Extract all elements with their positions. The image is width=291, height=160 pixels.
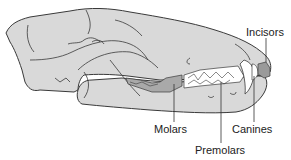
skull-illustration	[0, 0, 291, 160]
label-canines: Canines	[232, 124, 272, 135]
skull-diagram: Incisors Molars Canines Premolars	[0, 0, 291, 160]
label-incisors: Incisors	[246, 27, 284, 38]
label-premolars: Premolars	[195, 145, 245, 156]
label-molars: Molars	[154, 124, 187, 135]
